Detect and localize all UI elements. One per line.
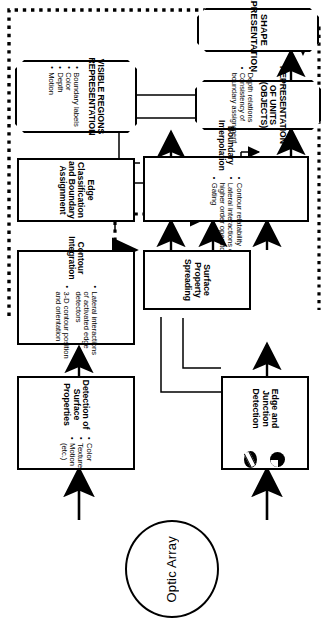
edge-circle-icon	[245, 451, 258, 468]
bullet: 3-D contour position	[62, 286, 70, 359]
diagram-page: SHAPE REPRESENTATION REPRESENTATION OF U…	[0, 0, 331, 626]
edge-junction-detection-title-line-2: Detection	[251, 378, 261, 439]
bullet-cont: of activated edge	[82, 286, 90, 359]
node-shape-representation[interactable]: SHAPE REPRESENTATION	[197, 8, 319, 52]
bullet: Lateral interactions or	[226, 177, 234, 258]
shape-representation-title-line-1: SHAPE	[258, 0, 268, 72]
optic-array-label: Optic Array	[165, 536, 180, 603]
bullet: Motion	[47, 66, 55, 126]
bullet: Color	[64, 66, 72, 126]
node-optic-array[interactable]: Optic Array	[125, 520, 219, 618]
bullet-cont: detectors	[73, 286, 81, 359]
bullet-cont: and orientation	[54, 286, 62, 359]
boundary-interpolation-title: Boundary Interpolation	[217, 120, 235, 171]
detection-surface-properties-title-line-1: Detection of	[81, 378, 90, 431]
node-contour-integration[interactable]: Contour Integration Lateral interactions…	[17, 250, 135, 345]
shape-representation-title-line-2: REPRESENTATION	[248, 0, 258, 72]
bullet: Depth relations	[246, 67, 254, 144]
edge-classification-title-line-3: Assignment	[57, 160, 66, 220]
detection-surface-properties-title-line-2: Surface Properties	[62, 378, 81, 431]
edge-classification-title-line-2: and Boundary	[67, 160, 76, 220]
node-edge-junction-detection[interactable]: Edge and Junction Detection	[221, 376, 309, 470]
node-edge-classification[interactable]: Edge Classification and Boundary Assignm…	[17, 158, 135, 222]
bullet: Boundary labels	[72, 66, 80, 126]
bullet: Gating	[209, 177, 217, 258]
representation-of-units-title-line-2: OF UNITS (OBJECTS)	[259, 66, 278, 144]
visible-regions-title-line-1: VISIBLE REGIONS	[96, 58, 105, 136]
node-boundary-interpolation[interactable]: Boundary Interpolation Contour relatabil…	[143, 156, 309, 222]
edge-junction-detection-title-line-1: Edge and Junction	[260, 378, 279, 439]
node-detection-of-surface-properties[interactable]: Detection of Surface Properties Color Te…	[17, 376, 135, 470]
bullet: Contour relatability	[234, 177, 242, 258]
junction-circle-icon	[271, 452, 286, 467]
node-surface-property-spreading[interactable]: Surface Property Spreading	[143, 250, 251, 310]
bullet: Depth	[55, 66, 63, 126]
node-visible-regions-representation[interactable]: VISIBLE REGIONS REPRESENTATION Boundary …	[15, 60, 137, 133]
bullet: Lateral interactions	[90, 286, 98, 359]
representation-of-units-title-line-1: REPRESENTATION	[277, 66, 286, 144]
edge-classification-title-line-1: Edge Classification	[76, 160, 95, 220]
bullet-cont: higher order operators	[218, 177, 226, 258]
diagram-canvas: SHAPE REPRESENTATION REPRESENTATION OF U…	[0, 0, 331, 626]
visible-regions-title-line-2: REPRESENTATION	[86, 58, 95, 136]
contour-integration-title: Contour Integration	[67, 236, 85, 279]
surface-property-spreading-title-line-2: Spreading	[183, 252, 192, 308]
bullet: Texture	[76, 437, 84, 468]
bullet-cont: (etc.)	[59, 437, 67, 468]
bullet: Color	[84, 437, 92, 468]
surface-property-spreading-title-line-1: Surface Property	[192, 252, 211, 308]
bullet: Motion	[68, 437, 76, 468]
